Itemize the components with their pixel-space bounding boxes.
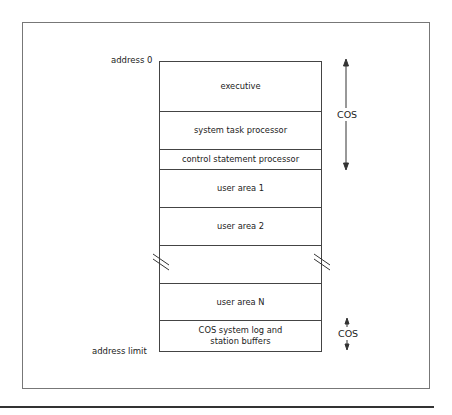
cos-label-bottom: COS: [338, 327, 358, 340]
region-user-area-n: user area N: [159, 283, 322, 320]
region-label: COS system log and station buffers: [190, 325, 291, 347]
region-label: user area 1: [217, 183, 264, 194]
region-label: control statement processor: [182, 154, 299, 165]
region-user-area-1: user area 1: [159, 169, 322, 207]
region-cos-system-log: COS system log and station buffers: [159, 320, 322, 352]
cos-label-top: COS: [337, 108, 357, 121]
region-system-task-processor: system task processor: [159, 111, 322, 149]
region-user-area-2: user area 2: [159, 207, 322, 245]
address-end-label: address limit: [92, 346, 147, 356]
region-label: user area 2: [217, 221, 264, 232]
region-label: executive: [220, 81, 260, 92]
region-executive: executive: [159, 61, 322, 111]
bottom-rule: [0, 406, 434, 408]
region-label: user area N: [216, 297, 264, 308]
address-start-label: address 0: [111, 55, 153, 65]
region-control-statement-processor: control statement processor: [159, 149, 322, 169]
region-label: system task processor: [194, 125, 287, 136]
region-gap: [159, 245, 322, 283]
